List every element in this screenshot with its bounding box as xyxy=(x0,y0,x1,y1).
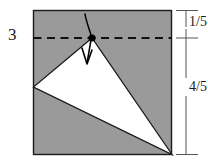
lower-segment-fraction-label: 4/5 xyxy=(189,80,207,94)
figure-canvas xyxy=(0,0,208,164)
folded-paper-figure: 3 1/5 4/5 xyxy=(0,0,208,164)
fold-point-dot xyxy=(88,34,95,41)
problem-number-label: 3 xyxy=(8,26,17,43)
upper-segment-fraction-label: 1/5 xyxy=(189,15,207,29)
